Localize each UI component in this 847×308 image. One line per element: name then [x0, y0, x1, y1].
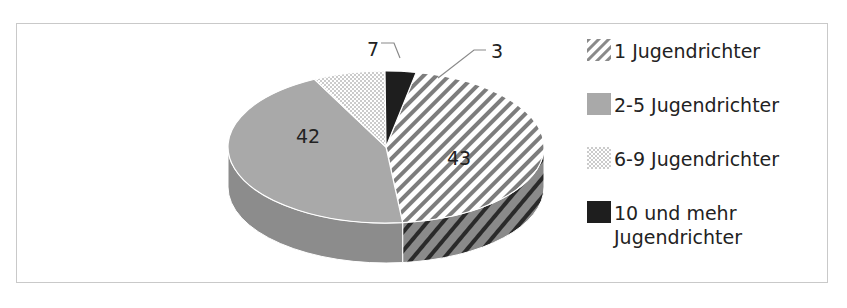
data-label-10-und-mehr: 3	[491, 40, 503, 62]
legend-label: 6-9 Jugendrichter	[614, 147, 824, 171]
legend-label: 2-5 Jugendrichter	[614, 93, 824, 117]
legend-label: 1 Jugendrichter	[614, 39, 824, 63]
gray-swatch-icon	[587, 93, 611, 115]
stripes-swatch-icon	[587, 39, 611, 61]
legend-item-10-und-mehr: 10 und mehr Jugendrichter	[587, 201, 824, 249]
black-swatch-icon	[587, 201, 611, 223]
legend-item-6-9-jugendrichter: 6-9 Jugendrichter	[587, 147, 824, 171]
legend-item-1-jugendrichter: 1 Jugendrichter	[587, 39, 824, 63]
leader-line-7	[381, 43, 400, 58]
dots-swatch-icon	[587, 147, 611, 169]
data-label-6-9-jugendrichter: 7	[367, 38, 379, 60]
legend-label: 10 und mehr Jugendrichter	[614, 201, 824, 249]
leader-line-3	[438, 50, 486, 78]
legend-item-2-5-jugendrichter: 2-5 Jugendrichter	[587, 93, 824, 117]
data-label-2-5-jugendrichter: 42	[296, 125, 320, 147]
data-label-1-jugendrichter: 43	[447, 147, 471, 169]
